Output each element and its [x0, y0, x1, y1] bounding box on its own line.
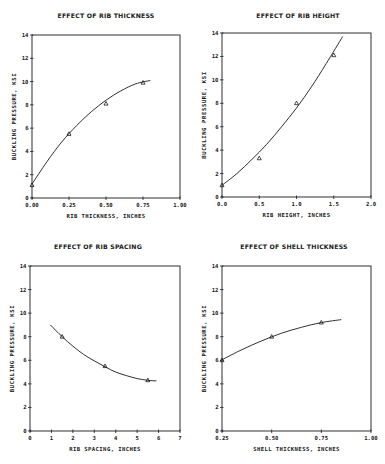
- plot-frame: [32, 35, 180, 198]
- y-tick-label: 8: [215, 334, 219, 340]
- y-tick-label: 12: [22, 55, 29, 61]
- chart-figure: EFFECT OF RIB THICKNESS 024681012140.000…: [0, 0, 385, 464]
- fit-curve: [222, 320, 341, 360]
- x-tick-label: 0.75: [136, 202, 149, 208]
- y-tick-label: 6: [25, 125, 29, 131]
- x-axis-label: RIB HEIGHT, INCHES: [263, 212, 331, 218]
- x-axis-label: RIB THICKNESS, INCHES: [66, 213, 145, 219]
- triangle-marker-icon: [270, 335, 274, 339]
- x-tick-label: 1.0: [291, 201, 302, 207]
- y-tick-label: 4: [23, 381, 27, 387]
- chart-title: EFFECT OF SHELL THICKNESS: [240, 243, 347, 250]
- chart-title: EFFECT OF RIB THICKNESS: [57, 12, 154, 19]
- x-tick-label: 0.0: [217, 201, 228, 207]
- x-tick-label: 4: [114, 435, 118, 441]
- x-tick-label: 1.00: [364, 435, 378, 441]
- y-tick-label: 4: [25, 148, 29, 154]
- chart-title: EFFECT OF RIB HEIGHT: [256, 12, 340, 19]
- chart-rib-spacing: EFFECT OF RIB SPACING 024681012140123456…: [9, 243, 182, 452]
- plot-frame: [222, 33, 371, 197]
- x-tick-label: 2.0: [366, 201, 377, 207]
- x-tick-label: 0.25: [62, 202, 75, 208]
- fit-curve: [32, 80, 150, 184]
- triangle-marker-icon: [295, 101, 299, 105]
- y-tick-label: 2: [215, 171, 218, 177]
- y-tick-label: 4: [215, 147, 219, 153]
- x-tick-label: 1.00: [173, 202, 187, 208]
- x-tick-label: 0.50: [265, 435, 279, 441]
- y-tick-label: 6: [215, 124, 219, 130]
- triangle-marker-icon: [104, 101, 108, 105]
- y-tick-label: 8: [215, 100, 219, 106]
- y-tick-label: 10: [212, 310, 219, 316]
- x-tick-label: 0.75: [315, 435, 328, 441]
- x-axis-label: RIB SPACING, INCHES: [69, 446, 141, 452]
- chart-shell-thickness: EFFECT OF SHELL THICKNESS 024681012140.2…: [201, 243, 378, 452]
- y-tick-label: 12: [212, 53, 219, 59]
- y-tick-label: 14: [22, 32, 29, 38]
- y-tick-label: 14: [20, 263, 27, 269]
- y-tick-label: 4: [215, 381, 219, 387]
- x-tick-label: 5: [135, 435, 138, 441]
- x-tick-label: 6: [157, 435, 161, 441]
- y-tick-label: 8: [23, 334, 27, 340]
- x-tick-label: 0.25: [215, 435, 228, 441]
- y-axis-label: BUCKLING PRESSURE, KSI: [201, 305, 207, 392]
- y-tick-label: 0: [23, 428, 27, 434]
- y-tick-label: 0: [215, 428, 219, 434]
- x-tick-label: 3: [93, 435, 96, 441]
- y-tick-label: 0: [215, 194, 219, 200]
- y-tick-label: 2: [25, 172, 28, 178]
- y-tick-label: 6: [23, 357, 27, 363]
- y-tick-label: 14: [212, 30, 219, 36]
- y-tick-label: 6: [215, 357, 219, 363]
- fit-curve: [222, 37, 343, 186]
- x-axis-label: SHELL THICKNESS, INCHES: [253, 446, 340, 452]
- y-tick-label: 12: [212, 287, 219, 293]
- x-tick-label: 1: [50, 435, 54, 441]
- chart-title: EFFECT OF RIB SPACING: [54, 243, 142, 250]
- x-tick-label: 7: [178, 435, 181, 441]
- x-tick-label: 0.5: [254, 201, 264, 207]
- x-tick-label: 2: [71, 435, 74, 441]
- plot-frame: [30, 266, 180, 431]
- y-tick-label: 2: [23, 404, 26, 410]
- y-axis-label: BUCKLING PRESSURE, KSI: [11, 73, 17, 160]
- y-axis-label: BUCKLING PRESSURE, KSI: [9, 305, 15, 392]
- y-tick-label: 12: [20, 287, 27, 293]
- y-tick-label: 10: [212, 77, 219, 83]
- chart-rib-thickness: EFFECT OF RIB THICKNESS 024681012140.000…: [11, 12, 187, 219]
- y-tick-label: 2: [215, 404, 218, 410]
- x-tick-label: 0.50: [99, 202, 113, 208]
- y-axis-label: BUCKLING PRESSURE, KSI: [201, 71, 207, 158]
- y-tick-label: 8: [25, 102, 29, 108]
- y-tick-label: 14: [212, 263, 219, 269]
- y-tick-label: 10: [20, 310, 27, 316]
- fit-curve: [50, 325, 156, 381]
- y-tick-label: 10: [22, 79, 29, 85]
- y-tick-label: 0: [25, 195, 29, 201]
- chart-rib-height: EFFECT OF RIB HEIGHT 024681012140.00.51.…: [201, 12, 377, 218]
- x-tick-label: 1.5: [329, 201, 339, 207]
- x-tick-label: 0.00: [25, 202, 39, 208]
- triangle-marker-icon: [257, 156, 261, 160]
- x-tick-label: 0: [28, 435, 32, 441]
